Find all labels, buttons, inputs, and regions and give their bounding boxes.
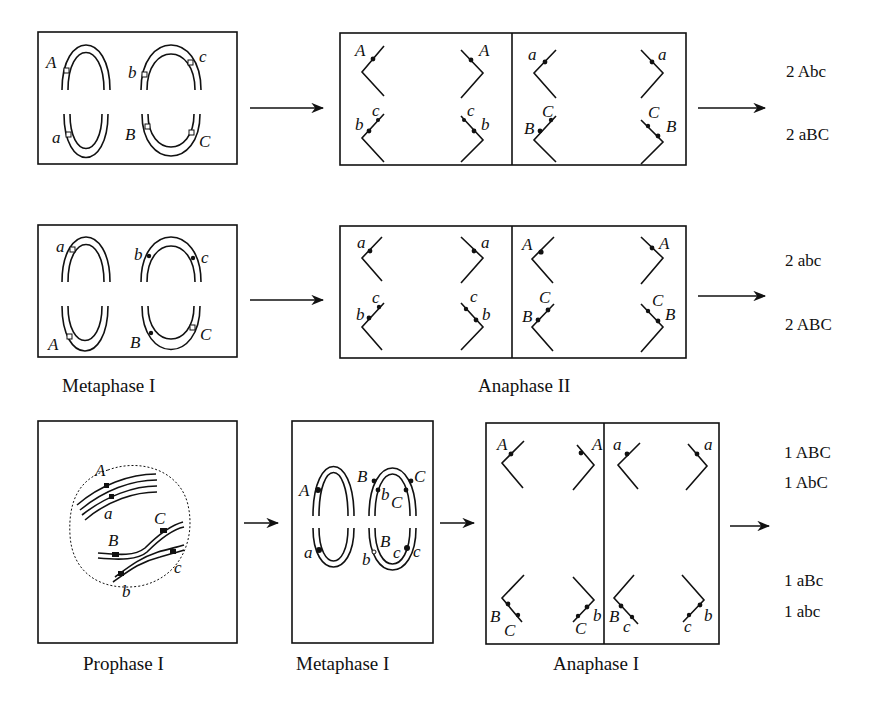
gene-label: b bbox=[134, 245, 143, 264]
gamete-result: 1 ABC bbox=[784, 443, 831, 462]
gene-label: a bbox=[304, 543, 313, 562]
gene-label: c bbox=[623, 617, 631, 636]
anaphase-i-box bbox=[486, 423, 719, 644]
gene-label: c bbox=[413, 542, 421, 561]
gamete-result: 2 Abc bbox=[786, 62, 827, 81]
gene-label: A bbox=[354, 41, 366, 60]
gene-label: c bbox=[372, 101, 380, 120]
caption-metaphase: Metaphase I bbox=[62, 375, 155, 396]
gene-label: C bbox=[200, 325, 212, 344]
row-3: A a B C b c Prophase I A a B C b bbox=[38, 421, 831, 674]
gene-label: B bbox=[522, 307, 533, 326]
gene-label: b bbox=[593, 606, 602, 625]
gene-label: c bbox=[199, 47, 207, 66]
gene-label: a bbox=[56, 237, 65, 256]
gene-label: a bbox=[658, 45, 667, 64]
gene-label: A bbox=[298, 481, 310, 500]
gene-label: b bbox=[481, 115, 490, 134]
gene-label: C bbox=[542, 102, 554, 121]
meiosis-diagram: A b c a B C A A b c c b a bbox=[0, 0, 877, 714]
gene-label: a bbox=[613, 435, 622, 454]
gene-label: a bbox=[52, 128, 61, 147]
gamete-result: 1 AbC bbox=[784, 473, 828, 492]
gene-label: b bbox=[482, 305, 491, 324]
gene-label: b bbox=[122, 582, 131, 601]
gene-label: b bbox=[355, 115, 364, 134]
gamete-result: 1 abc bbox=[784, 602, 821, 621]
gene-label: A bbox=[478, 41, 490, 60]
gamete-result: 2 aBC bbox=[786, 125, 829, 144]
gene-label: C bbox=[652, 291, 664, 310]
gene-label: A bbox=[47, 335, 59, 354]
gene-label: C bbox=[199, 132, 211, 151]
gene-label: C bbox=[648, 103, 660, 122]
gene-label: A bbox=[521, 235, 533, 254]
gene-label: b bbox=[704, 606, 713, 625]
gene-label: b bbox=[381, 485, 390, 504]
gene-label: B bbox=[357, 467, 368, 486]
gene-label: a bbox=[104, 504, 113, 523]
gene-label: b bbox=[356, 305, 365, 324]
gene-label: C bbox=[154, 509, 166, 528]
gene-label: c bbox=[174, 558, 182, 577]
gene-label: A bbox=[45, 53, 57, 72]
gene-label: a bbox=[481, 233, 490, 252]
row1-anaphase-box bbox=[340, 33, 686, 165]
gene-label: B bbox=[125, 125, 136, 144]
gene-label: A bbox=[496, 435, 508, 454]
prophase-box bbox=[38, 421, 237, 643]
gene-label: A bbox=[591, 435, 603, 454]
gene-label: C bbox=[414, 467, 426, 486]
gene-label: a bbox=[704, 435, 713, 454]
gene-label: b bbox=[128, 63, 137, 82]
gene-label: C bbox=[575, 619, 587, 638]
gamete-result: 1 aBc bbox=[784, 571, 824, 590]
gene-label: B bbox=[108, 531, 119, 550]
row2-anaphase-box bbox=[340, 226, 686, 358]
gene-label: a bbox=[357, 233, 366, 252]
gene-label: B bbox=[490, 607, 501, 626]
caption-anaphase-i: Anaphase I bbox=[553, 653, 639, 674]
row-2: a b c A B C Metaphase I a a b c c b A A bbox=[38, 225, 832, 396]
gene-label: b bbox=[362, 550, 371, 569]
gene-label: B bbox=[609, 607, 620, 626]
gene-label: c bbox=[201, 248, 209, 267]
gene-label: B bbox=[666, 117, 677, 136]
gene-label: c bbox=[470, 287, 478, 306]
gene-label: c bbox=[372, 288, 380, 307]
gene-label: B bbox=[130, 333, 141, 352]
gene-label: A bbox=[94, 461, 106, 480]
gene-label: a bbox=[528, 45, 537, 64]
gene-label: C bbox=[504, 621, 516, 640]
gene-label: C bbox=[391, 493, 403, 512]
gene-label: c bbox=[393, 543, 401, 562]
caption-metaphase-i: Metaphase I bbox=[296, 653, 389, 674]
gene-label: B bbox=[380, 532, 391, 551]
caption-prophase: Prophase I bbox=[83, 653, 164, 674]
caption-anaphase-ii: Anaphase II bbox=[478, 375, 570, 396]
gene-label: B bbox=[665, 305, 676, 324]
gene-label: B bbox=[524, 119, 535, 138]
gene-label: c bbox=[684, 617, 692, 636]
gamete-result: 2 ABC bbox=[785, 315, 832, 334]
gene-label: c bbox=[467, 101, 475, 120]
gamete-result: 2 abc bbox=[785, 251, 822, 270]
row-1: A b c a B C A A b c c b a bbox=[38, 32, 829, 165]
gene-label: C bbox=[539, 288, 551, 307]
gene-label: A bbox=[658, 234, 670, 253]
